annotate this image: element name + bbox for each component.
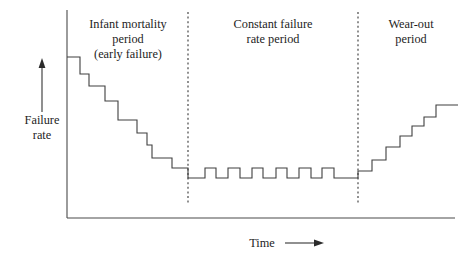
region-label-group: Infant mortalityperiod(early failure)Con… (89, 17, 434, 61)
x-axis-label: Time (249, 236, 275, 250)
region-label-infant-mortality-line3: (early failure) (94, 47, 162, 61)
y-axis-label-line2: rate (33, 128, 52, 142)
region-label-infant-mortality-line1: Infant mortality (89, 17, 167, 31)
region-label-wear-out-line2: period (395, 32, 426, 46)
region-label-constant-failure-rate-line1: Constant failure (234, 17, 313, 31)
failure-rate-curve-group (67, 57, 458, 178)
region-label-constant-failure-rate: Constant failurerate period (234, 17, 313, 46)
x-axis-caption: Time (249, 236, 324, 250)
failure-rate-arrow (39, 58, 46, 112)
failure-rate-arrow-head (39, 58, 46, 68)
y-axis-label-line1: Failure (25, 113, 60, 127)
region-label-constant-failure-rate-line2: rate period (247, 32, 300, 46)
region-label-wear-out-line1: Wear-out (388, 17, 434, 31)
region-label-wear-out: Wear-outperiod (388, 17, 434, 46)
region-label-infant-mortality-line2: period (112, 32, 143, 46)
time-arrow-head (314, 239, 324, 246)
bathtub-curve-chart: Failure rate Time Infant mortalityperiod… (0, 0, 473, 265)
failure-rate-curve (67, 57, 458, 178)
region-label-infant-mortality: Infant mortalityperiod(early failure) (89, 17, 167, 61)
y-axis-caption: Failure rate (25, 113, 60, 142)
bathtub-curve-figure: Failure rate Time Infant mortalityperiod… (0, 0, 473, 265)
